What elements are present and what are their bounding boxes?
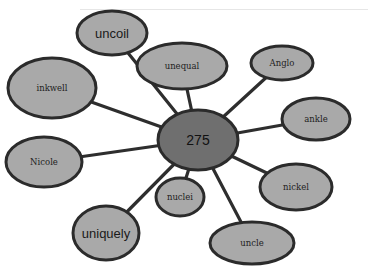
node-uncle: uncle	[210, 222, 294, 264]
node-anglo: Anglo	[251, 46, 313, 80]
node-label: uniquely	[82, 226, 131, 241]
node-label: uncoil	[95, 26, 129, 41]
node-label: ankle	[304, 114, 327, 124]
center-node: 275	[158, 110, 238, 170]
node-label: nuclei	[167, 192, 193, 202]
spider-diagram: uncoilunequalAngloinkwellankleNicolenick…	[0, 0, 368, 268]
node-label: unequal	[165, 61, 200, 71]
node-nuclei: nuclei	[156, 178, 204, 216]
node-nickel: nickel	[260, 164, 332, 210]
node-inkwell: inkwell	[8, 58, 96, 118]
node-label: uncle	[240, 238, 263, 248]
center-label: 275	[186, 132, 210, 148]
diagram-nodes: uncoilunequalAngloinkwellankleNicolenick…	[6, 11, 350, 264]
diagram-canvas: uncoilunequalAngloinkwellankleNicolenick…	[0, 0, 368, 268]
node-unequal: unequal	[137, 43, 227, 89]
node-label: Nicole	[30, 157, 58, 167]
node-ankle: ankle	[282, 98, 350, 140]
node-uniquely: uniquely	[73, 206, 139, 260]
node-nicole: Nicole	[6, 137, 82, 187]
node-label: inkwell	[36, 83, 67, 93]
node-label: Anglo	[269, 58, 295, 68]
node-label: nickel	[283, 182, 309, 192]
node-uncoil: uncoil	[77, 11, 147, 55]
